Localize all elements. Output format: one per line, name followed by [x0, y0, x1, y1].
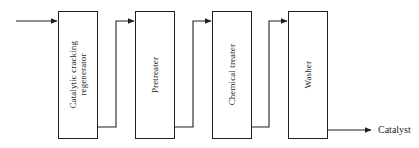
regenerator-to-pretreater-connector: [98, 21, 134, 127]
unit-label: Pretreater: [150, 57, 160, 93]
unit-label: Chemical treater: [227, 44, 237, 105]
unit-catalytic-cracking-regenerator[interactable]: Catalytic cracking regenerator: [58, 11, 98, 139]
unit-chemical-treater[interactable]: Chemical treater: [212, 11, 252, 139]
unit-label: Catalytic cracking regenerator: [68, 41, 88, 109]
pretreater-to-chemical-treater-connector: [175, 21, 211, 127]
catalyst-output-label: Catalyst: [378, 124, 411, 135]
chemical-treater-to-washer-connector: [252, 21, 287, 127]
process-flow-diagram: Catalytic cracking regenerator Pretreate…: [0, 0, 419, 148]
unit-label: Washer: [303, 61, 313, 88]
unit-washer[interactable]: Washer: [288, 11, 328, 139]
unit-pretreater[interactable]: Pretreater: [135, 11, 175, 139]
